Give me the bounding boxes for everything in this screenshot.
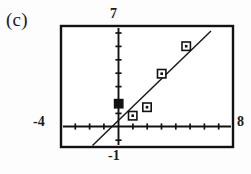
x-max-tick-label: 8	[237, 114, 244, 130]
data-point-marker	[115, 100, 123, 108]
graphing-calculator-plot	[0, 0, 251, 174]
panel-label: (c)	[6, 9, 28, 31]
y-max-tick-label: 7	[110, 6, 117, 22]
y-min-tick-label: -1	[108, 148, 120, 164]
x-min-tick-label: -4	[33, 114, 45, 130]
